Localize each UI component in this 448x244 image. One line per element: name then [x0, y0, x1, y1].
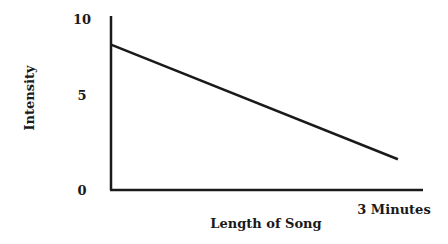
x-tick-label-3-minutes: 3 Minutes: [357, 202, 430, 217]
series-layer: [111, 45, 398, 160]
y-tick-label-5: 5: [77, 88, 86, 103]
y-axis-label: Intensity: [22, 65, 37, 131]
series-line-0: [111, 45, 398, 160]
chart: 10 5 0 Intensity 3 Minutes Length of Son…: [0, 0, 448, 244]
y-tick-label-0: 0: [77, 183, 86, 198]
x-axis-label: Length of Song: [210, 216, 321, 231]
y-tick-label-10: 10: [73, 12, 91, 27]
